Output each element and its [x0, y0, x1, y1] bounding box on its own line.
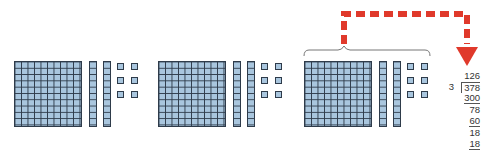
base-ten-division-diagram: 126 3 378 300 78 60 18 18: [0, 0, 488, 153]
quotient: 126: [464, 71, 480, 81]
subtract-step-2: 60: [469, 116, 480, 127]
divisor: 3: [449, 82, 454, 92]
remainder-step-1: 78: [469, 105, 480, 115]
remainder-step-2: 18: [469, 128, 480, 138]
arrow-icon: [0, 0, 488, 153]
long-division: 126 3 378 300 78 60 18 18: [440, 71, 488, 153]
subtract-step-1: 300: [464, 93, 480, 104]
subtract-step-3: 18: [469, 139, 480, 150]
